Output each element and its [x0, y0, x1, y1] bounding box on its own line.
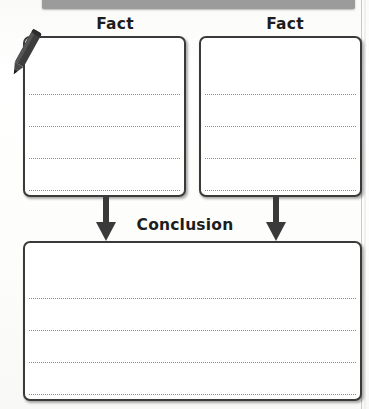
worksheet-page: Fact Fact — [0, 0, 369, 409]
writing-lines-group — [29, 38, 180, 195]
writing-line[interactable] — [205, 63, 356, 95]
page-edge-shadow — [364, 0, 366, 409]
top-banner-bar — [42, 0, 355, 9]
writing-line[interactable] — [205, 159, 356, 191]
fact-label-right: Fact — [245, 15, 325, 33]
fact-box-right[interactable] — [199, 36, 362, 197]
writing-lines-group — [29, 243, 356, 399]
pencil-icon — [2, 26, 48, 82]
writing-line[interactable] — [29, 299, 356, 331]
writing-lines-group — [205, 38, 356, 195]
writing-line[interactable] — [29, 159, 180, 191]
arrow-down-left-icon — [95, 196, 117, 242]
writing-line[interactable] — [205, 95, 356, 127]
fact-label-left: Fact — [75, 15, 155, 33]
writing-line[interactable] — [205, 127, 356, 159]
writing-line[interactable] — [29, 127, 180, 159]
writing-line[interactable] — [29, 63, 180, 95]
arrow-down-right-icon — [265, 196, 287, 242]
conclusion-label: Conclusion — [125, 216, 245, 234]
writing-line[interactable] — [29, 267, 356, 299]
writing-line[interactable] — [29, 331, 356, 363]
conclusion-box[interactable] — [23, 241, 362, 401]
writing-line[interactable] — [29, 95, 180, 127]
writing-line[interactable] — [29, 363, 356, 395]
